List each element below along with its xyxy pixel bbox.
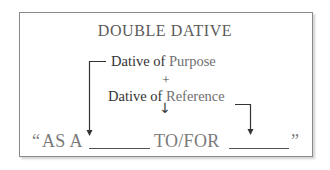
open-quote: “	[32, 131, 40, 152]
reference-bracket-arrow	[235, 105, 254, 136]
close-quote: ”	[291, 131, 299, 152]
formula-as-a: AS A	[42, 131, 83, 152]
purpose-bracket-arrow	[87, 62, 107, 137]
blank-line-purpose	[89, 148, 150, 149]
formula-to-for: TO/FOR	[154, 131, 220, 152]
blank-line-reference	[229, 148, 289, 149]
